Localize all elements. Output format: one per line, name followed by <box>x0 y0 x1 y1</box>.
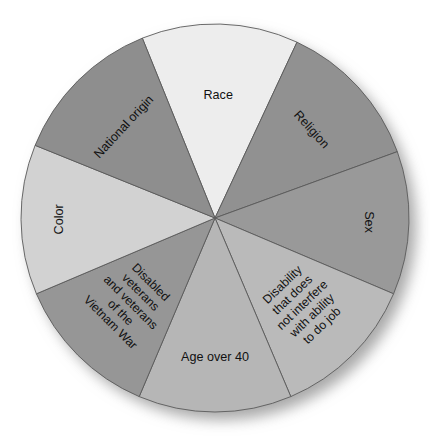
slice-label-line: Age over 40 <box>181 350 249 364</box>
pie-chart: RaceReligionSexDisabilitythat doesnot in… <box>0 0 430 438</box>
slice-label-color: Color <box>52 204 66 234</box>
slice-label-line: Race <box>203 88 232 102</box>
pie-chart-container: RaceReligionSexDisabilitythat doesnot in… <box>0 0 430 438</box>
slice-label-line: Color <box>52 204 66 234</box>
slice-label-race: Race <box>203 88 232 102</box>
slice-label-age-over-40: Age over 40 <box>181 350 249 364</box>
slice-label-line: Sex <box>362 211 376 233</box>
slice-label-sex: Sex <box>362 211 376 233</box>
